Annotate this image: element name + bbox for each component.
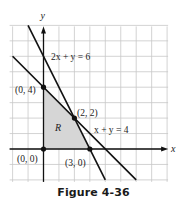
line-label-2x-plus-y-eq-6: 2x + y = 6 (51, 52, 90, 62)
point-label-0-0: (0, 0) (17, 154, 38, 165)
y-axis-arrow-icon (41, 26, 46, 33)
labels: 2x + y = 6 x + y = 4 R (0, 4) (2, 2) (0,… (15, 52, 129, 169)
point-label-2-2: (2, 2) (77, 108, 98, 119)
point-label-0-4: (0, 4) (15, 85, 36, 96)
region-label: R (54, 122, 61, 133)
figure-graph: x y 2x + y = 6 x + y = 4 R (0, 4) (2, 2)… (0, 0, 187, 211)
point-label-3-0: (3, 0) (65, 158, 86, 169)
vertex-dot (41, 146, 46, 151)
x-axis-label: x (170, 143, 176, 154)
vertex-dot (87, 146, 92, 151)
figure-caption: Figure 4-36 (0, 186, 187, 199)
vertex-dot (41, 85, 46, 90)
line-label-x-plus-y-eq-4: x + y = 4 (94, 125, 129, 135)
y-axis-label: y (40, 10, 46, 21)
